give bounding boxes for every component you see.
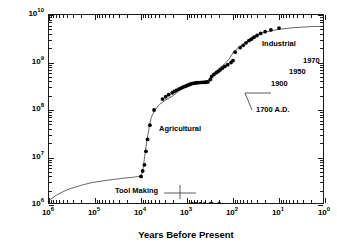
- data-point: [161, 97, 165, 101]
- annotation-nineteen-fifty: 1950: [289, 68, 306, 76]
- y-tick-label: 107: [32, 152, 44, 161]
- x-axis-title: Years Before Present: [48, 229, 324, 240]
- x-tick-label: 100: [318, 208, 330, 217]
- data-point: [148, 123, 152, 127]
- data-point: [277, 26, 281, 30]
- annotation-nineteen-seventy: 1970: [303, 57, 320, 65]
- tick-mark: [49, 205, 54, 206]
- data-point: [255, 34, 259, 38]
- data-point: [226, 63, 230, 67]
- x-tick-label: 101: [272, 208, 284, 217]
- plot-area: Tool Making5000 B.C.Agricultural1700 A.D…: [49, 15, 323, 203]
- data-point: [139, 175, 143, 179]
- data-point: [143, 163, 147, 167]
- data-point: [259, 31, 263, 35]
- data-point: [167, 93, 171, 97]
- y-tick-label: 109: [32, 57, 44, 66]
- annotation-leader-lines: [164, 93, 271, 199]
- y-tick-label: 108: [32, 104, 44, 113]
- data-point: [263, 30, 267, 34]
- x-tick-label: 103: [180, 208, 192, 217]
- data-point: [146, 138, 150, 142]
- x-tick-label: 102: [226, 208, 238, 217]
- annotation-agricultural: Agricultural: [159, 125, 201, 133]
- seventeen-hundred-ad-leader: [245, 93, 252, 110]
- tick-mark: [325, 198, 326, 203]
- data-point: [233, 50, 237, 54]
- tick-mark: [325, 15, 326, 20]
- y-tick-label: 1010: [28, 9, 44, 18]
- x-tick-label: 104: [134, 208, 146, 217]
- x-tick-label: 106: [42, 208, 54, 217]
- annotation-industrial: Industrial: [262, 40, 296, 48]
- data-point: [144, 149, 148, 153]
- tick-mark: [318, 205, 323, 206]
- data-point: [269, 28, 273, 32]
- x-tick-label: 105: [88, 208, 100, 217]
- data-point: [241, 43, 245, 47]
- data-point-markers: [139, 25, 323, 178]
- population-chart-figure: World Population Years Before Present 10…: [0, 0, 337, 249]
- data-point: [238, 46, 242, 50]
- data-point: [141, 169, 145, 173]
- plot-frame: Tool Making5000 B.C.Agricultural1700 A.D…: [48, 14, 324, 204]
- annotation-seventeen-hundred-ad: 1700 A.D.: [256, 106, 290, 114]
- data-point: [231, 59, 235, 63]
- annotation-tool-making: Tool Making: [115, 187, 158, 195]
- data-point: [152, 108, 156, 112]
- annotation-five-thousand-bc: 5000 B.C.: [190, 201, 224, 203]
- annotation-nineteen-hundred: 1900: [271, 80, 288, 88]
- y-tick-label: 106: [32, 199, 44, 208]
